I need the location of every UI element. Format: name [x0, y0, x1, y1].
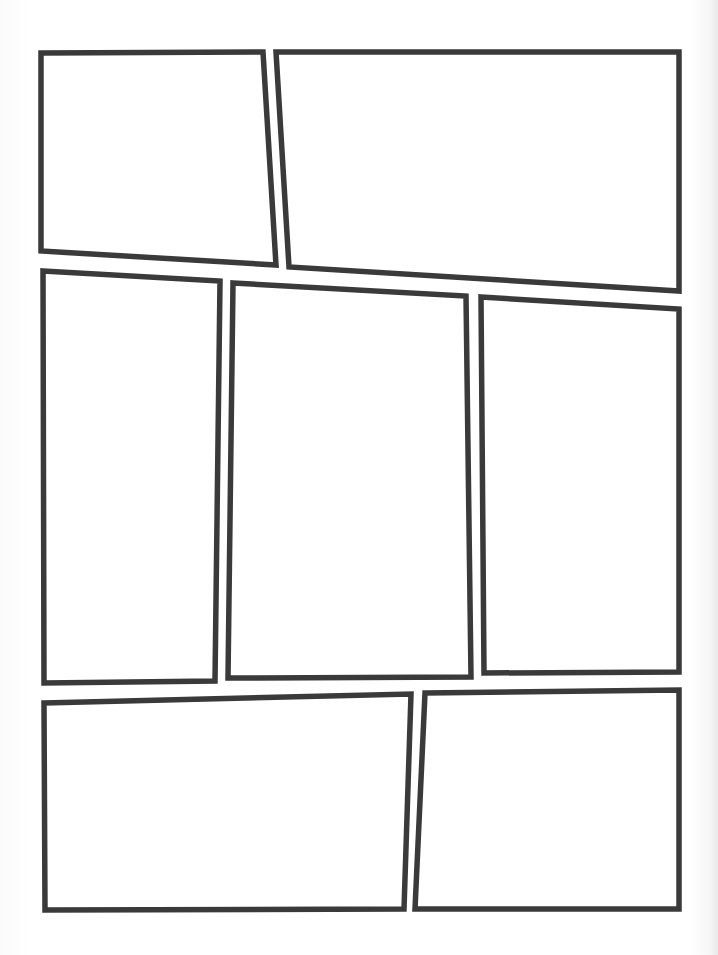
- panel-6: [44, 694, 411, 910]
- panel-4: [228, 283, 471, 678]
- panel-5: [481, 297, 679, 673]
- panel-7: [415, 690, 679, 909]
- page-edge-shadow: [710, 0, 718, 955]
- panel-3: [43, 271, 220, 683]
- panel-2: [276, 52, 679, 291]
- panel-1: [41, 52, 276, 265]
- comic-page: [0, 0, 718, 955]
- panel-layout: [0, 0, 718, 955]
